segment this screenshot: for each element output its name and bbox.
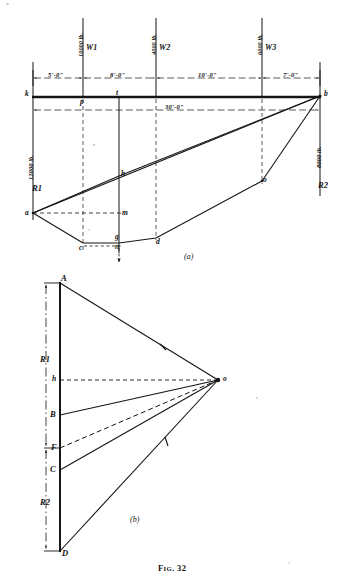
diagram-a-group bbox=[32, 18, 322, 262]
dimension-label-7-0: 7'-0" bbox=[283, 72, 298, 79]
point-label-c: c bbox=[79, 244, 82, 252]
point-label-k: k bbox=[25, 90, 29, 98]
scan-speck-5 bbox=[288, 562, 290, 564]
string-o-b bbox=[262, 96, 320, 181]
point-label-g: g bbox=[115, 233, 119, 241]
point-label-F: F bbox=[51, 443, 57, 452]
diagram-b-group bbox=[44, 282, 220, 552]
point-label-m: m bbox=[122, 209, 128, 217]
point-label-a: a bbox=[25, 209, 29, 217]
ray-o-C bbox=[60, 380, 218, 470]
string-d-o bbox=[156, 181, 262, 238]
reaction-magnitude-R2: 8000 lb. bbox=[316, 146, 323, 168]
load-magnitude-W2: 4000 lb. bbox=[151, 34, 157, 55]
pole-rays bbox=[60, 283, 218, 551]
reaction-magnitude-R1: 12000 lb. bbox=[28, 155, 35, 180]
point-label-C: C bbox=[50, 465, 56, 474]
dimension-label-span: 30'-0" bbox=[165, 104, 184, 111]
scan-speck-2 bbox=[88, 229, 90, 231]
figure-caption: FIG. 32 bbox=[158, 563, 186, 573]
tick-ray-o-D bbox=[165, 437, 168, 446]
scan-speck-6 bbox=[6, 3, 9, 5]
ray-direction-ticks bbox=[160, 344, 168, 446]
panel-label-b: (b) bbox=[130, 516, 139, 524]
reaction-bracket-label-R2: R2 bbox=[40, 498, 50, 507]
point-label-n: n bbox=[115, 243, 119, 251]
point-label-d: d bbox=[156, 238, 160, 246]
funicular-polygon bbox=[33, 96, 320, 243]
dot-D bbox=[59, 550, 61, 552]
ray-o-B bbox=[60, 380, 218, 415]
load-label-W2: W2 bbox=[159, 44, 170, 52]
string-a-h bbox=[33, 176, 119, 213]
reaction-label-R2: R2 bbox=[318, 181, 328, 190]
string-h-b bbox=[119, 96, 320, 176]
figure-32-drawing bbox=[0, 0, 350, 586]
point-label-p: p bbox=[80, 98, 84, 106]
dimension-label-10-0: 10'-0" bbox=[198, 72, 217, 79]
dimension-label-5-0: 5'-0" bbox=[48, 72, 63, 79]
scan-speck-4 bbox=[256, 397, 258, 399]
ray-o-F-dashed bbox=[60, 380, 218, 448]
load-magnitude-W1: 10000 lb. bbox=[78, 33, 84, 57]
point-label-B: B bbox=[50, 410, 56, 419]
point-label-D: D bbox=[62, 549, 68, 558]
string-g-d bbox=[119, 238, 156, 243]
reaction-label-R1: R1 bbox=[32, 184, 42, 193]
point-label-h-b: h bbox=[52, 375, 56, 383]
dot-pole-o bbox=[216, 378, 220, 382]
point-label-pole-o: o bbox=[223, 375, 227, 383]
point-label-t: t bbox=[116, 89, 118, 97]
ray-o-A bbox=[60, 283, 218, 380]
point-label-h: h bbox=[121, 170, 125, 178]
reaction-action-lines bbox=[33, 62, 320, 220]
ray-o-D bbox=[60, 380, 218, 551]
dot-b bbox=[319, 95, 322, 98]
dot-a bbox=[32, 212, 35, 215]
dimension-label-8-0: 8'-0" bbox=[110, 72, 125, 79]
point-label-A: A bbox=[61, 274, 67, 283]
reaction-bracket-label-R1: R1 bbox=[40, 355, 50, 364]
point-label-o: o bbox=[263, 176, 267, 184]
scan-speck-1 bbox=[93, 144, 95, 146]
scan-speck-3 bbox=[157, 157, 159, 159]
load-action-lines bbox=[83, 18, 262, 97]
point-label-b: b bbox=[324, 90, 328, 98]
load-label-W3: W3 bbox=[265, 44, 276, 52]
panel-label-a: (a) bbox=[184, 253, 193, 261]
string-a-c bbox=[33, 213, 83, 243]
load-magnitude-W3: 6000 lb. bbox=[257, 34, 263, 55]
load-label-W1: W1 bbox=[86, 44, 97, 52]
